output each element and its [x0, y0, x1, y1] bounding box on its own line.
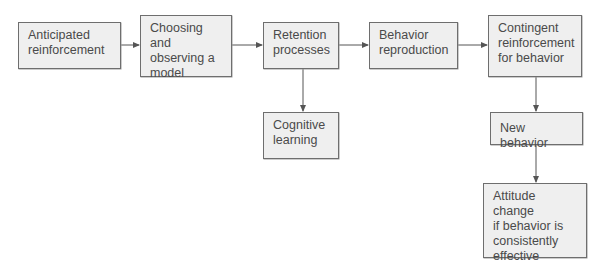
node-new-behavior: New behavior [490, 112, 583, 145]
node-label: Attitude change if behavior is consisten… [493, 189, 577, 264]
node-label: Contingent reinforcement for behavior [498, 21, 572, 66]
node-label: New behavior [500, 121, 573, 151]
node-label: Choosing and observing a model [150, 21, 222, 81]
node-retention-processes: Retention processes [263, 22, 339, 69]
node-cognitive-learning: Cognitive learning [263, 112, 339, 159]
node-behavior-reproduction: Behavior reproduction [369, 22, 458, 69]
node-contingent-reinforcement: Contingent reinforcement for behavior [488, 15, 582, 77]
node-label: Retention processes [273, 28, 329, 58]
node-label: Anticipated reinforcement [28, 28, 111, 58]
node-anticipated-reinforcement: Anticipated reinforcement [18, 22, 121, 69]
node-choosing-observing-model: Choosing and observing a model [140, 15, 232, 77]
node-label: Behavior reproduction [379, 28, 448, 58]
node-attitude-change: Attitude change if behavior is consisten… [483, 183, 587, 258]
node-label: Cognitive learning [273, 118, 329, 148]
